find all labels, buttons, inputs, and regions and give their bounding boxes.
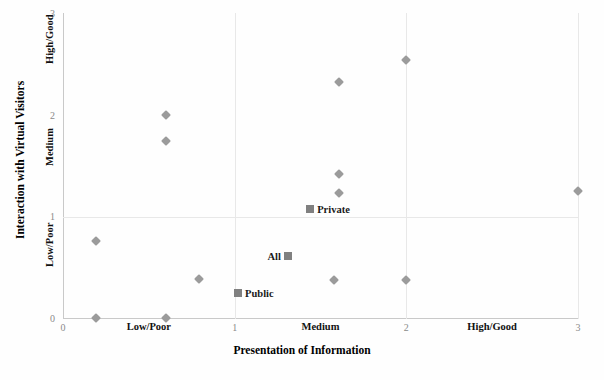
x-tick-label: 1	[232, 322, 237, 333]
data-point	[329, 275, 339, 285]
x-axis-line	[63, 318, 579, 319]
data-point	[194, 274, 204, 284]
data-point	[161, 136, 171, 146]
x-category-label: High/Good	[467, 321, 517, 332]
data-point	[401, 275, 411, 285]
data-point	[401, 55, 411, 65]
legend-marker-point	[284, 252, 292, 260]
point-label-public: Public	[245, 287, 274, 298]
data-point	[334, 169, 344, 179]
legend-marker-point	[234, 289, 242, 297]
gridline-x-3	[578, 13, 579, 319]
x-tick-label: 3	[576, 322, 581, 333]
y-category-label: Low/Poor	[44, 191, 55, 267]
x-axis-title: Presentation of Information	[0, 344, 604, 356]
y-axis-title: Interaction with Virtual Visitors	[14, 50, 26, 270]
gridline-y-1	[63, 217, 579, 218]
data-point	[91, 236, 101, 246]
y-tick-label: 0	[50, 313, 55, 324]
y-category-label: High/Good	[44, 0, 55, 64]
data-point	[334, 77, 344, 87]
y-axis-line	[63, 13, 64, 319]
point-label-private: Private	[317, 204, 350, 215]
x-tick-label: 2	[404, 322, 409, 333]
data-point	[91, 313, 101, 323]
scatter-chart-figure: PrivateAllPublic 01230123Low/PoorMediumH…	[0, 0, 604, 380]
data-point	[573, 186, 583, 196]
gridline-x-1	[235, 13, 236, 319]
x-category-label: Low/Poor	[127, 321, 171, 332]
x-tick-label: 0	[61, 322, 66, 333]
x-category-label: Medium	[302, 321, 340, 332]
legend-marker-point	[306, 205, 314, 213]
data-point	[161, 110, 171, 120]
point-label-all: All	[267, 250, 280, 261]
y-category-label: Medium	[44, 90, 55, 166]
data-point	[334, 188, 344, 198]
